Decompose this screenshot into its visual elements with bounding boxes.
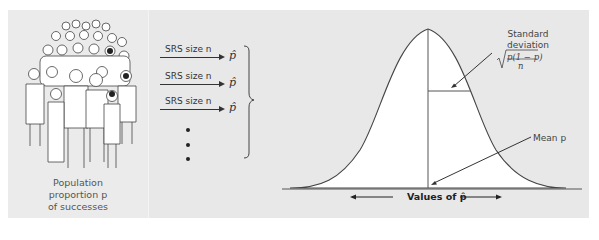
sd-formula-denominator: n <box>518 61 523 71</box>
sd-formula-numerator: p(1 − p) <box>507 52 542 62</box>
mean-label: Mean p <box>533 133 566 143</box>
sd-label-line1: Standard <box>492 29 564 40</box>
sd-label: Standard deviation <box>492 29 564 51</box>
sd-label-line2: deviation <box>492 40 564 51</box>
curly-brace-icon <box>244 46 254 158</box>
axis-label: Values of p̂ <box>407 191 466 202</box>
